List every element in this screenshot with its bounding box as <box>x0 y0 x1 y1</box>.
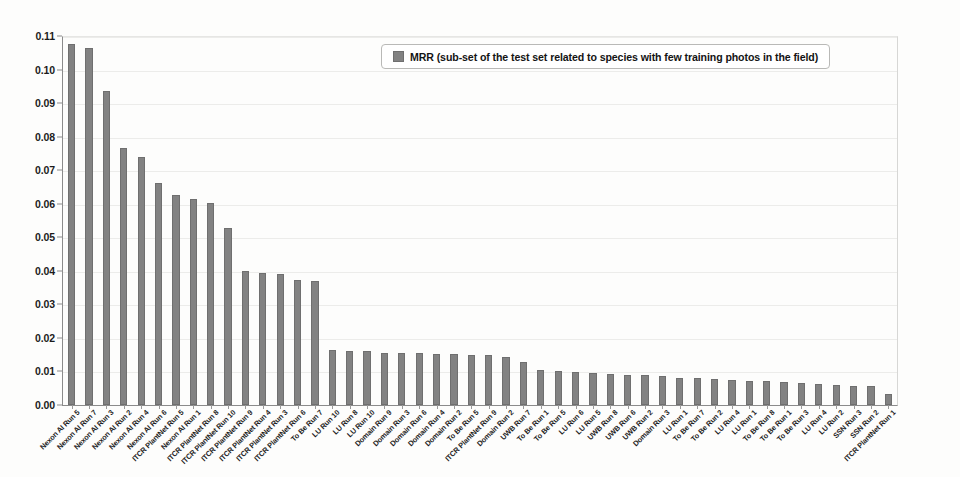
bar <box>607 374 614 405</box>
y-axis-tick-label: 0.11 <box>36 30 55 42</box>
bar <box>207 203 214 405</box>
bar <box>416 353 423 405</box>
y-axis-tick-label: 0.10 <box>35 64 55 76</box>
bar <box>155 183 162 405</box>
bar <box>537 370 544 405</box>
y-axis-tick-label: 0.02 <box>35 332 55 344</box>
bar <box>138 157 145 405</box>
bar <box>520 362 527 405</box>
legend-label: MRR (sub-set of the test set related to … <box>410 51 818 63</box>
x-axis-labels: Nexon AI Run 5Nexon AI Run 7Nexon AI Run… <box>0 408 960 477</box>
bar <box>120 148 127 405</box>
bar <box>485 355 492 405</box>
bar <box>798 383 805 405</box>
bar <box>676 378 683 406</box>
bars-layer <box>63 36 897 405</box>
y-axis-tick-label: 0.03 <box>35 298 55 310</box>
bar <box>433 354 440 405</box>
bar <box>885 394 892 405</box>
bar <box>294 280 301 405</box>
y-axis-tick-label: 0.06 <box>35 198 55 210</box>
bar <box>311 281 318 405</box>
bar <box>555 371 562 405</box>
bar <box>363 351 370 405</box>
y-axis-tick-label: 0.01 <box>35 365 55 377</box>
chart-legend: MRR (sub-set of the test set related to … <box>381 44 830 69</box>
bar <box>468 355 475 405</box>
y-axis-tick-label: 0.05 <box>35 231 55 243</box>
bar <box>329 350 336 405</box>
bar <box>85 48 92 405</box>
bar <box>242 271 249 405</box>
bar <box>398 353 405 405</box>
bar <box>224 228 231 405</box>
y-axis-tick-label: 0.04 <box>35 265 55 277</box>
bar <box>277 274 284 405</box>
bar <box>833 385 840 405</box>
y-axis: 0.000.010.020.030.040.050.060.070.080.09… <box>0 36 62 406</box>
bar <box>624 375 631 405</box>
bar <box>589 373 596 405</box>
bar <box>346 351 353 405</box>
bar <box>450 354 457 405</box>
bar <box>641 375 648 405</box>
bar <box>815 384 822 405</box>
bar <box>711 379 718 405</box>
bar <box>746 381 753 405</box>
y-axis-tick-label: 0.09 <box>35 97 55 109</box>
bar <box>572 372 579 405</box>
y-axis-tick-label: 0.08 <box>35 131 55 143</box>
y-axis-tick-label: 0.07 <box>35 164 55 176</box>
bar <box>502 357 509 405</box>
bar <box>381 353 388 405</box>
bar <box>103 91 110 405</box>
bar <box>259 273 266 405</box>
bar <box>867 386 874 405</box>
bar <box>728 380 735 405</box>
bar <box>172 195 179 405</box>
bar <box>850 386 857 405</box>
bar <box>694 378 701 405</box>
bar-chart: 0.000.010.020.030.040.050.060.070.080.09… <box>0 0 960 477</box>
bar <box>780 382 787 405</box>
bar <box>190 199 197 405</box>
bar <box>68 44 75 405</box>
legend-swatch-icon <box>393 51 404 62</box>
bar <box>659 376 666 405</box>
bar <box>763 381 770 405</box>
